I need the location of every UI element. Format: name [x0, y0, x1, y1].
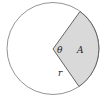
area-label-a: A [76, 45, 84, 55]
sector-diagram: θ A r [0, 0, 104, 104]
angle-label-theta: θ [57, 45, 63, 55]
radius-label-r: r [58, 68, 63, 78]
